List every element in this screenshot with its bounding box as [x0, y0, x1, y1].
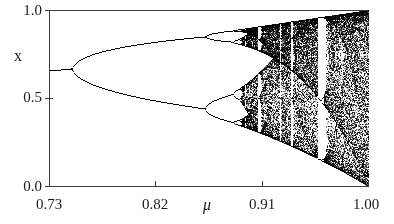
- y-axis-label: x: [14, 48, 22, 64]
- y-tick-label-1.0: 1.0: [2, 3, 42, 18]
- x-tick-label-0.91: 0.91: [232, 197, 292, 212]
- y-tick-label-0.0: 0.0: [2, 179, 42, 194]
- bifurcation-diagram-figure: x μ 1.0 0.5 0.0 0.73 0.82 0.91 1.00: [0, 0, 394, 224]
- x-tick-label-0.73: 0.73: [19, 197, 79, 212]
- x-axis-label: μ: [203, 197, 211, 213]
- x-tick-label-1.00: 1.00: [336, 197, 394, 212]
- y-tick-label-0.5: 0.5: [2, 90, 42, 105]
- x-tick-label-0.82: 0.82: [125, 197, 185, 212]
- bifurcation-plot-canvas: [0, 0, 394, 224]
